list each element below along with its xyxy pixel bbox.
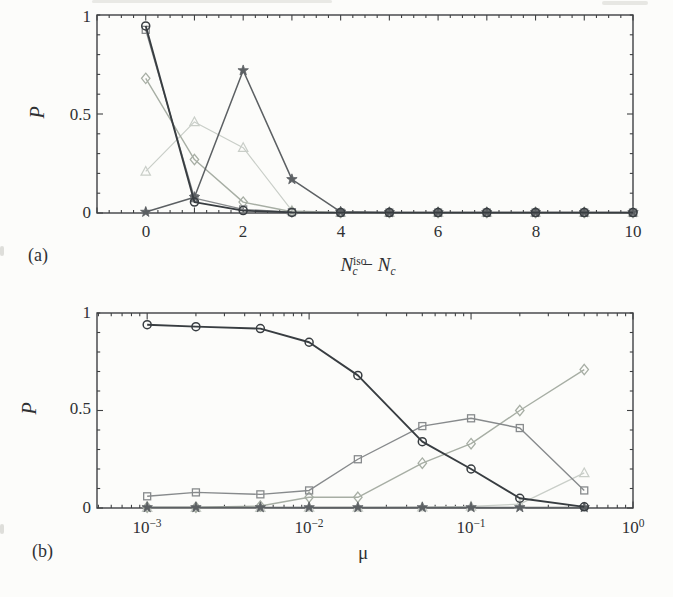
panel-a-xtick-2: 2	[223, 221, 263, 243]
xlabel-sub-c1: c	[352, 265, 357, 277]
panel-b-ylabel: P	[18, 385, 41, 415]
panel-a-xtick-4: 4	[321, 221, 361, 243]
plot-canvas	[0, 0, 673, 597]
panel-b-circle-series	[143, 321, 588, 511]
panel-b-axes	[97, 313, 633, 512]
panel-a-xtick-10: 10	[613, 221, 653, 243]
panel-a-axes	[97, 15, 638, 218]
panel-b-xtick-1e-3: 10−3	[119, 512, 175, 539]
panel-a-star-series	[141, 65, 639, 217]
panel-b-ytick-05: 0.5	[50, 398, 91, 420]
xlabel-minus: −	[362, 254, 373, 275]
figure-page: 1 0.5 0 0 2 4 6 8 10 P Nisoc − Nc (a) 1 …	[0, 0, 673, 597]
panel-b-label: (b)	[32, 540, 72, 562]
panel-a-ticks	[97, 15, 633, 213]
xlabel-sub-c2: c	[391, 265, 396, 277]
panel-a-circle-series	[142, 22, 637, 217]
panel-b-triangle-series	[142, 468, 588, 511]
panel-a-ylabel: P	[26, 89, 49, 119]
panel-b-square-series	[144, 415, 588, 500]
panel-b-ytick-0: 0	[55, 497, 91, 519]
panel-b-ticks	[97, 313, 633, 508]
panel-a-ytick-0: 0	[55, 202, 91, 224]
panel-a-xlabel: Nisoc − Nc	[306, 250, 430, 282]
panel-b-xtick-1e0: 100	[607, 512, 659, 539]
panel-a-diamond-series	[142, 73, 638, 218]
panel-b-diamond-series	[143, 364, 588, 512]
xlabel-N2: N	[378, 254, 391, 275]
panel-a-xtick-6: 6	[418, 221, 458, 243]
panel-b-xlabel: μ	[340, 542, 386, 564]
panel-a-xtick-0: 0	[126, 221, 166, 243]
panel-a-label: (a)	[28, 244, 68, 266]
panel-a-square-series	[142, 26, 636, 216]
panel-b-xtick-1e-1: 10−1	[443, 512, 499, 539]
panel-a-ytick-05: 0.5	[50, 104, 91, 126]
panel-a-triangle-series	[141, 117, 638, 216]
panel-a-ytick-1: 1	[55, 6, 91, 28]
panel-b-ytick-1: 1	[55, 302, 91, 324]
panel-b-xtick-1e-2: 10−2	[281, 512, 337, 539]
panel-a-xtick-8: 8	[516, 221, 556, 243]
